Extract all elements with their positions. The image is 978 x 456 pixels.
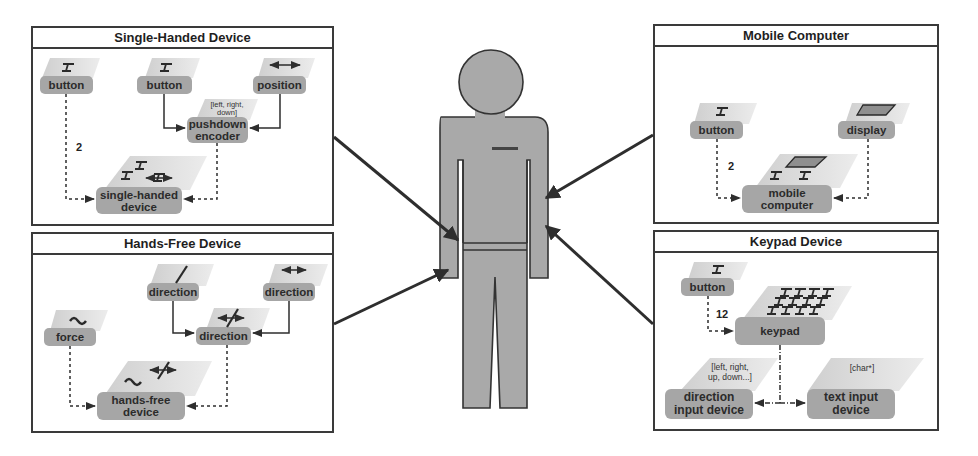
node-keypad: keypad <box>735 317 825 345</box>
node-button: button <box>40 76 93 94</box>
node-display: display <box>838 121 895 139</box>
direction-input-note: [left, right, up, down...] <box>700 362 760 382</box>
node-pushdown-encoder: pushdown encoder <box>187 117 248 143</box>
node-hands-free-device: hands-free device <box>97 392 185 420</box>
encoder-note: [left, right, down] <box>205 101 249 117</box>
edge-count: 2 <box>76 141 82 153</box>
node-force: force <box>44 328 96 346</box>
node-position: position <box>253 76 306 94</box>
node-direction: direction <box>263 283 315 301</box>
node-text-input-device: text input device <box>807 389 895 419</box>
node-direction: direction <box>196 327 251 345</box>
node-mobile-computer: mobile computer <box>742 185 832 213</box>
edge-count: 12 <box>716 308 728 320</box>
edge-count: 2 <box>728 160 734 172</box>
node-direction-input-device: direction input device <box>665 389 753 419</box>
diagram-graphics <box>0 0 978 456</box>
node-direction: direction <box>147 283 199 301</box>
human-figure <box>440 50 548 408</box>
text-input-note: [char*] <box>840 364 884 372</box>
node-single-handed-device: single-handed device <box>96 187 182 214</box>
node-button: button <box>681 278 734 296</box>
node-button: button <box>690 121 743 139</box>
node-button: button <box>137 76 192 94</box>
